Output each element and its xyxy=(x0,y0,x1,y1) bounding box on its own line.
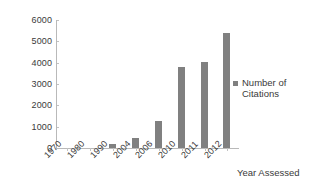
y-tick-label: 5000 xyxy=(32,36,52,46)
plot-area xyxy=(56,20,239,148)
y-tick-label: 3000 xyxy=(32,79,52,89)
y-tick-label: 2000 xyxy=(32,100,52,110)
bar-2012 xyxy=(223,33,230,148)
legend-label: Number of Citations xyxy=(242,77,312,99)
bar-chart: 6000 5000 4000 3000 2000 1000 0 1970 198… xyxy=(0,0,325,192)
chart-legend: Number of Citations xyxy=(233,77,312,99)
legend-swatch-icon xyxy=(233,81,238,86)
y-tick-label: 1000 xyxy=(32,122,52,132)
x-axis-title: Year Assessed xyxy=(237,167,300,178)
y-tick-label: 6000 xyxy=(32,15,52,25)
y-axis-labels: 6000 5000 4000 3000 2000 1000 0 xyxy=(0,0,52,192)
bar-2011 xyxy=(201,62,208,148)
bar-2010 xyxy=(178,67,185,148)
bar-2006 xyxy=(155,121,162,148)
x-tick-mark xyxy=(227,148,228,151)
y-tick-label: 4000 xyxy=(32,58,52,68)
